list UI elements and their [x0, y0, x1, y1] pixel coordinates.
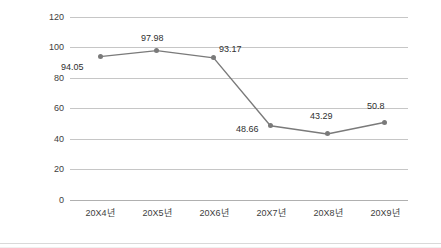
- x-axis-tick-label: 20X7년: [241, 208, 301, 219]
- data-point-label: 93.17: [219, 44, 242, 54]
- x-axis-tick-label: 20X5년: [127, 208, 187, 219]
- x-axis-tick-label: 20X6년: [184, 208, 244, 219]
- x-axis-tick-label: 20X9년: [355, 208, 415, 219]
- data-point-label: 43.29: [310, 111, 333, 121]
- data-point-marker: [98, 54, 103, 59]
- chart-figure: 120 100 80 60 40 20 0 94.05 97.98 93.17 …: [0, 0, 441, 248]
- data-point-label: 94.05: [61, 62, 84, 72]
- data-point-label: 97.98: [141, 33, 164, 43]
- data-point-marker: [382, 120, 387, 125]
- data-point-label: 48.66: [236, 124, 259, 134]
- line-chart-plot-area: 120 100 80 60 40 20 0 94.05 97.98 93.17 …: [0, 0, 441, 248]
- page-bottom-border: [0, 243, 441, 244]
- data-point-label: 50.8: [367, 101, 385, 111]
- x-axis-tick-label: 20X4년: [70, 208, 130, 219]
- x-axis-tick-label: 20X8년: [298, 208, 358, 219]
